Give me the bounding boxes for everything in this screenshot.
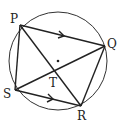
cyclic-quadrilateral-diagram: P Q R S T [0, 0, 122, 124]
label-s: S [3, 87, 11, 101]
segment-sp [15, 25, 20, 90]
label-p: P [10, 12, 18, 26]
center-dot [57, 60, 60, 63]
label-q: Q [107, 37, 117, 51]
segment-qr [81, 46, 105, 106]
segment-sq [15, 46, 105, 90]
label-t: T [49, 76, 57, 90]
label-r: R [77, 109, 87, 123]
